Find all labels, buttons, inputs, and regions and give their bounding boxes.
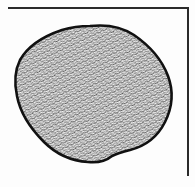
textured-blob-shape: [0, 0, 195, 187]
figure-canvas: [0, 0, 195, 187]
